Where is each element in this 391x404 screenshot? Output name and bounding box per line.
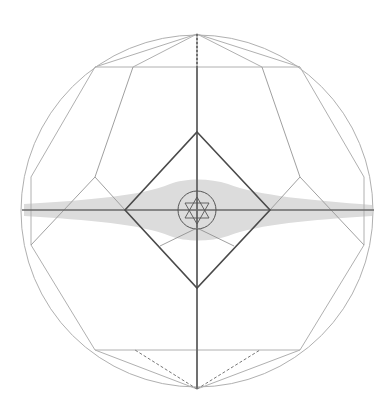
top-fan-line <box>133 34 197 67</box>
bottom-fan-dashed <box>135 350 197 389</box>
top-fan-line <box>197 34 262 67</box>
inner-left-line <box>95 67 133 210</box>
inner-right-line <box>262 67 300 210</box>
geometric-diagram <box>0 0 391 404</box>
bottom-fan-dashed <box>197 350 260 389</box>
diagram-canvas: Geometric construction: circumscribed po… <box>0 0 391 404</box>
